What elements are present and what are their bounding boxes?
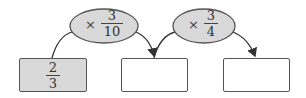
start-fraction: 2 3 (46, 61, 60, 90)
denominator: 4 (207, 25, 215, 38)
arrow-2 (154, 32, 175, 58)
denominator: 10 (104, 25, 121, 38)
start-value-box: 2 3 (19, 58, 87, 92)
arrow-2-head (233, 32, 255, 56)
denominator: 3 (49, 77, 57, 90)
arrow-1-head (136, 32, 154, 56)
numerator: 3 (207, 9, 215, 22)
times-sign-1: × (85, 17, 96, 32)
arrow-1 (52, 32, 72, 58)
times-sign-2: × (188, 17, 199, 32)
operation-fraction-2: 3 4 (204, 9, 218, 38)
answer-box-2[interactable] (223, 58, 290, 92)
answer-box-1[interactable] (121, 58, 188, 92)
numerator: 2 (49, 61, 57, 74)
operation-fraction-1: 3 10 (101, 9, 123, 38)
numerator: 3 (108, 9, 116, 22)
